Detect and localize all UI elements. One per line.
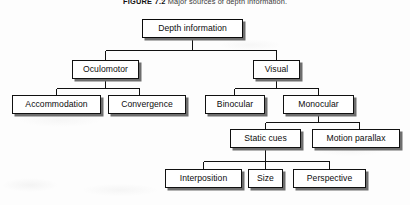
node-size[interactable]: Size xyxy=(248,169,283,188)
node-perspective[interactable]: Perspective xyxy=(293,169,366,188)
node-interposition-label: Interposition xyxy=(180,174,227,183)
node-visual[interactable]: Visual xyxy=(253,60,300,79)
node-convergence-label: Convergence xyxy=(121,100,173,109)
node-binocular-label: Binocular xyxy=(217,100,253,109)
node-depth-information[interactable]: Depth information xyxy=(142,19,243,38)
node-oculomotor-label: Oculomotor xyxy=(83,65,128,74)
node-motion-parallax[interactable]: Motion parallax xyxy=(312,129,400,148)
node-convergence[interactable]: Convergence xyxy=(108,95,186,114)
node-accommodation-label: Accommodation xyxy=(25,100,87,109)
node-interposition[interactable]: Interposition xyxy=(165,169,242,188)
node-motion-parallax-label: Motion parallax xyxy=(326,134,385,143)
node-binocular[interactable]: Binocular xyxy=(205,95,265,114)
node-oculomotor[interactable]: Oculomotor xyxy=(72,60,139,79)
node-static-cues-label: Static cues xyxy=(244,134,287,143)
node-perspective-label: Perspective xyxy=(307,174,352,183)
node-accommodation[interactable]: Accommodation xyxy=(12,95,101,114)
figure-container: FIGURE 7.2 Major sources of depth inform… xyxy=(0,0,410,205)
node-static-cues[interactable]: Static cues xyxy=(230,129,301,148)
node-size-label: Size xyxy=(257,174,274,183)
node-monocular[interactable]: Monocular xyxy=(283,95,354,114)
node-visual-label: Visual xyxy=(265,65,289,74)
node-monocular-label: Monocular xyxy=(298,100,339,109)
node-depth-information-label: Depth information xyxy=(158,24,227,33)
